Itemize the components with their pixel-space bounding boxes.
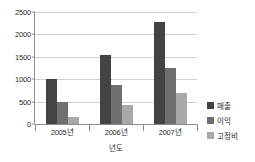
y-tick-mark [32, 101, 35, 102]
legend-item[interactable]: 이익 [207, 115, 237, 126]
y-tick-label: 1500 [15, 52, 31, 61]
bar [100, 55, 111, 124]
bar [165, 68, 176, 124]
plot-area: 05001000150020002500 [34, 12, 197, 124]
legend-label: 고정비 [217, 130, 237, 141]
bar [122, 105, 133, 124]
plot-wrapper: 05001000150020002500 [34, 12, 197, 124]
gridline [35, 124, 197, 125]
chart-legend: 매출이익고정비 [207, 100, 237, 141]
y-tick-label: 500 [19, 97, 31, 106]
bar-groups [36, 12, 197, 124]
bar-chart: 05001000150020002500 2005년2006년2007년 년도 … [0, 0, 255, 162]
y-tick-label: 2000 [15, 30, 31, 39]
y-tick-label: 0 [27, 120, 31, 129]
bar-group [143, 12, 197, 124]
y-tick-label: 1000 [15, 75, 31, 84]
bar [57, 102, 68, 124]
bar-group [90, 12, 144, 124]
legend-label: 매출 [217, 100, 231, 111]
bar-group [36, 12, 90, 124]
legend-item[interactable]: 매출 [207, 100, 237, 111]
x-axis-title: 년도 [35, 142, 197, 153]
legend-label: 이익 [217, 115, 231, 126]
x-axis-label: 2006년 [89, 126, 143, 137]
x-axis-label: 2007년 [143, 126, 197, 137]
bar [46, 79, 57, 124]
y-tick-mark [32, 34, 35, 35]
bar [176, 93, 187, 124]
y-tick-mark [32, 56, 35, 57]
legend-swatch-icon [207, 117, 214, 124]
bar [111, 85, 122, 124]
legend-swatch-icon [207, 132, 214, 139]
legend-item[interactable]: 고정비 [207, 130, 237, 141]
bar [68, 117, 79, 124]
y-tick-mark [32, 79, 35, 80]
x-axis-label: 2005년 [35, 126, 89, 137]
legend-swatch-icon [207, 102, 214, 109]
y-tick-label: 2500 [15, 8, 31, 17]
x-axis-labels: 2005년2006년2007년 [35, 126, 197, 137]
y-tick-mark [32, 12, 35, 13]
x-axis-separator [197, 124, 198, 131]
bar [154, 22, 165, 124]
